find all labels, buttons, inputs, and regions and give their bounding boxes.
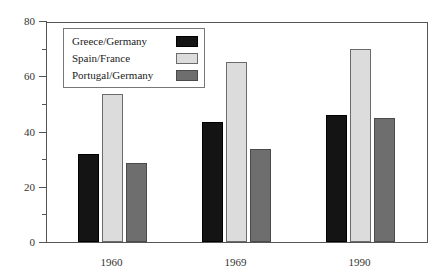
bar [226, 62, 247, 242]
x-axis-label-1969: 1969 [196, 257, 276, 268]
bar [78, 154, 99, 242]
legend-swatch [176, 70, 198, 81]
y-axis-label: 60 [0, 71, 35, 82]
legend-item: Spain/France [72, 50, 198, 67]
legend-label: Portugal/Germany [72, 70, 153, 81]
y-axis-label: 80 [0, 16, 35, 27]
legend-item: Greece/Germany [72, 33, 198, 50]
legend-swatch [176, 36, 198, 47]
y-axis-label: 40 [0, 127, 35, 138]
bar [326, 115, 347, 242]
bar [102, 94, 123, 242]
legend-label: Spain/France [72, 53, 130, 64]
bar [350, 49, 371, 242]
bar-chart-figure: 020406080 196019691990 Greece/GermanySpa… [0, 0, 447, 275]
bar [374, 118, 395, 242]
x-axis-label-1990: 1990 [320, 257, 400, 268]
bar [202, 122, 223, 242]
chart-legend: Greece/GermanySpain/FrancePortugal/Germa… [63, 28, 205, 88]
y-axis-label: 20 [0, 182, 35, 193]
bar [250, 149, 271, 242]
legend-label: Greece/Germany [72, 36, 147, 47]
bar [126, 163, 147, 242]
legend-item: Portugal/Germany [72, 67, 198, 84]
legend-swatch [176, 53, 198, 64]
y-axis-label: 0 [0, 237, 35, 248]
x-axis-label-1960: 1960 [72, 257, 152, 268]
